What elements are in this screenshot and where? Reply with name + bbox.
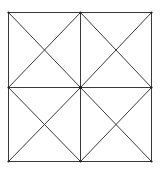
vertex-mid-left — [7, 86, 9, 88]
geometry-diagram — [0, 0, 162, 172]
vertex-mid-right — [150, 86, 152, 88]
vertex-bottom-right — [150, 160, 152, 162]
vertex-top-left — [7, 11, 9, 13]
vertex-center — [79, 86, 83, 90]
vertex-bottom-left — [7, 160, 9, 162]
vertex-top-mid — [79, 11, 81, 13]
vertex-top-right — [150, 11, 152, 13]
vertex-bottom-mid — [79, 160, 81, 162]
